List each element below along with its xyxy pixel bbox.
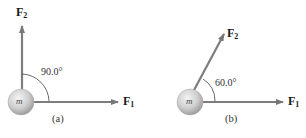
angle-arc-b xyxy=(203,79,215,101)
force-f2-label-b: F2 xyxy=(227,26,238,41)
mass-label-b: m xyxy=(186,96,193,106)
angle-label-a: 90.0° xyxy=(41,66,63,77)
force-f1-label-b: F1 xyxy=(288,94,299,109)
angle-label-b: 60.0° xyxy=(215,77,237,88)
panel-a xyxy=(8,26,118,115)
force-f2-label-a: F2 xyxy=(16,5,27,20)
caption-a: (a) xyxy=(52,113,64,124)
force-f1-label-a: F1 xyxy=(123,94,134,109)
caption-b: (b) xyxy=(225,113,237,124)
mass-label-a: m xyxy=(16,96,23,106)
